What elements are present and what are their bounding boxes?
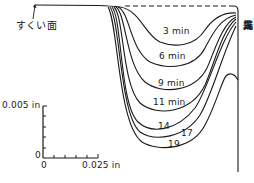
curve-label-9min: 9 min — [158, 79, 185, 88]
scale-vertical-label: 0.005 in — [2, 101, 40, 110]
curve-label-6min: 6 min — [159, 52, 186, 61]
curve-label-19: 19 — [168, 140, 180, 149]
rake-face-arrow-icon — [33, 6, 35, 19]
curve-label-3min: 3 min — [163, 27, 190, 36]
scale-origin-y-label: 0 — [35, 151, 41, 160]
tool-tip-edge-line — [234, 6, 238, 172]
scale-ticks — [43, 106, 98, 158]
scale-origin-x-label: 0 — [41, 161, 47, 170]
tool-tip-char: 端 — [242, 20, 254, 32]
scale-horizontal-label: 0.025 in — [82, 161, 120, 170]
rake-face-label: すくい面 — [16, 21, 57, 31]
curve-label-11min: 11 min — [153, 98, 186, 107]
rake-face-line — [35, 5, 120, 7]
curve-label-14: 14 — [158, 122, 170, 131]
curve-label-17: 17 — [181, 129, 193, 138]
